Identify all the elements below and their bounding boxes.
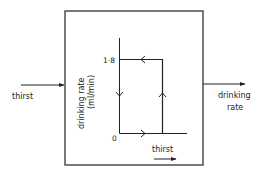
x-axis-label: thirst: [152, 145, 173, 154]
diagram-canvas: thirst drinking rate 1·8 0 drinking rate…: [0, 0, 266, 174]
y-axis-label-line2: (ml/min): [87, 75, 96, 109]
y-tick-high: 1·8: [103, 56, 115, 65]
output-label-line1: drinking: [218, 91, 251, 100]
y-axis-label-line1: drinking rate: [77, 77, 86, 129]
hysteresis-loop: [120, 60, 163, 134]
input-label: thirst: [12, 92, 33, 101]
y-tick-low: 0: [112, 134, 117, 143]
output-label-line2: rate: [227, 103, 243, 112]
